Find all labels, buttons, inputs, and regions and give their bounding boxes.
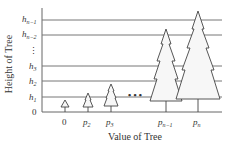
svg-text:pn−1: pn−1 [157,117,173,128]
svg-text:hn−1: hn−1 [22,14,37,25]
ellipsis-dots: • • • [128,90,142,100]
svg-text:h1: h1 [29,92,37,103]
svg-text:hn−2: hn−2 [22,29,37,40]
svg-text:0: 0 [32,107,37,117]
svg-text:h2: h2 [29,76,37,87]
x-axis-label: Value of Tree [108,131,162,142]
tree-0-icon [61,100,69,112]
svg-text:pn: pn [192,117,201,128]
svg-text:⋮: ⋮ [29,46,38,56]
tree-pn-1-icon [150,29,182,112]
tree-height-value-diagram: Height of Tree hn−1 hn−2 ⋮ h3 h2 h1 0 [0,0,225,150]
svg-text:p2: p2 [82,117,91,128]
x-tick-labels: 0 p2 p3 pn−1 pn [62,117,201,128]
tree-p3-icon [104,84,118,112]
svg-text:h3: h3 [29,61,37,72]
svg-text:p3: p3 [105,117,114,128]
svg-text:0: 0 [62,117,67,127]
y-axis-label: Height of Tree [3,34,14,93]
tree-pn-icon [176,11,220,112]
tree-p2-icon [83,93,93,112]
y-tick-labels: hn−1 hn−2 ⋮ h3 h2 h1 0 [22,14,38,117]
